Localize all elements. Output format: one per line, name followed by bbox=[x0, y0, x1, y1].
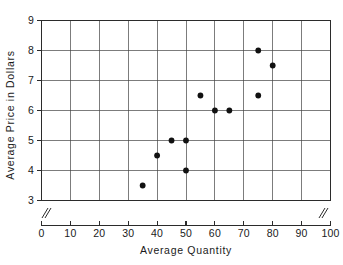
data-point-4 bbox=[183, 168, 189, 174]
y-tick-label-7: 7 bbox=[28, 74, 34, 86]
x-tick-label-0: 0 bbox=[38, 227, 44, 239]
x-tick-label-30: 30 bbox=[122, 227, 134, 239]
data-point-8 bbox=[255, 48, 261, 54]
x-tick-label-50: 50 bbox=[180, 227, 192, 239]
data-point-6 bbox=[212, 108, 218, 114]
data-point-9 bbox=[255, 93, 261, 99]
x-tick-label-100: 100 bbox=[321, 227, 339, 239]
x-axis-title: Average Quantity bbox=[140, 244, 232, 256]
data-point-7 bbox=[226, 108, 232, 114]
x-tick-label-80: 80 bbox=[267, 227, 279, 239]
y-tick-label-4: 4 bbox=[28, 164, 34, 176]
y-tick-label-3: 3 bbox=[28, 194, 34, 206]
data-point-10 bbox=[270, 63, 276, 69]
data-point-1 bbox=[154, 153, 160, 159]
x-tick-label-60: 60 bbox=[209, 227, 221, 239]
data-point-3 bbox=[183, 138, 189, 144]
data-point-0 bbox=[140, 183, 146, 189]
data-point-5 bbox=[198, 93, 204, 99]
y-tick-label-8: 8 bbox=[28, 44, 34, 56]
chart-canvas: 0102030405060708090100 3456789 Average Q… bbox=[0, 0, 343, 265]
y-tick-label-9: 9 bbox=[28, 14, 34, 26]
y-axis-title: Average Price in Dollars bbox=[4, 50, 16, 179]
x-tick-label-40: 40 bbox=[151, 227, 163, 239]
scatter-chart-figure: 0102030405060708090100 3456789 Average Q… bbox=[0, 0, 343, 265]
x-tick-label-70: 70 bbox=[238, 227, 250, 239]
y-tick-label-5: 5 bbox=[28, 134, 34, 146]
data-point-2 bbox=[169, 138, 175, 144]
x-tick-label-10: 10 bbox=[64, 227, 76, 239]
y-tick-label-6: 6 bbox=[28, 104, 34, 116]
x-tick-label-90: 90 bbox=[296, 227, 308, 239]
x-tick-label-20: 20 bbox=[93, 227, 105, 239]
